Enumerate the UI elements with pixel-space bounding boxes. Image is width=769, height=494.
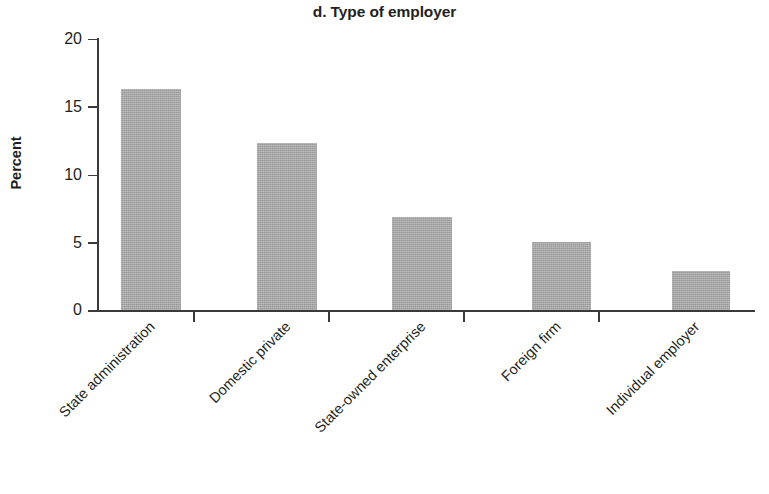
x-category-label-domestic-private: Domestic private bbox=[206, 318, 294, 406]
x-tick-mark-4 bbox=[598, 311, 600, 322]
y-axis-title: Percent bbox=[8, 128, 24, 198]
x-category-label-individual-employer: Individual employer bbox=[603, 318, 703, 418]
bar-domestic-private bbox=[257, 143, 317, 310]
y-tick-label-15: 15 bbox=[42, 99, 82, 115]
bar-state-administration bbox=[121, 89, 181, 310]
y-tick-label-10: 10 bbox=[42, 167, 82, 183]
y-tick-mark-20 bbox=[88, 39, 97, 41]
y-tick-label-5: 5 bbox=[42, 235, 82, 251]
bar-state-owned-enterprise bbox=[392, 217, 452, 310]
plot-area bbox=[97, 39, 755, 310]
bar-chart: d. Type of employer Percent 20 15 10 5 0… bbox=[0, 0, 769, 494]
x-category-label-state-administration: State administration bbox=[56, 318, 158, 420]
y-tick-label-0: 0 bbox=[42, 302, 82, 318]
y-tick-label-20: 20 bbox=[42, 31, 82, 47]
y-tick-mark-15 bbox=[88, 106, 97, 108]
x-tick-mark-3 bbox=[463, 311, 465, 322]
x-category-label-state-owned-enterprise: State-owned enterprise bbox=[311, 318, 428, 435]
x-tick-mark-2 bbox=[328, 311, 330, 322]
chart-title: d. Type of employer bbox=[0, 3, 769, 21]
x-category-label-foreign-firm: Foreign firm bbox=[498, 318, 564, 384]
y-tick-mark-5 bbox=[88, 242, 97, 244]
x-tick-mark-1 bbox=[193, 311, 195, 322]
y-tick-mark-10 bbox=[88, 175, 97, 177]
bar-individual-employer bbox=[672, 271, 730, 310]
bar-foreign-firm bbox=[532, 242, 591, 310]
x-axis-line bbox=[88, 310, 755, 312]
